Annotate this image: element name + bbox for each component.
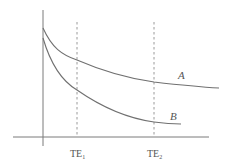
curve-b xyxy=(43,38,181,124)
curve-a xyxy=(43,28,219,88)
diagram-canvas: A B TE1 TE2 xyxy=(0,0,233,165)
curve-b-label: B xyxy=(170,110,177,122)
te1-label: TE1 xyxy=(70,148,85,160)
curve-a-label: A xyxy=(177,69,185,81)
te2-label: TE2 xyxy=(147,148,162,160)
